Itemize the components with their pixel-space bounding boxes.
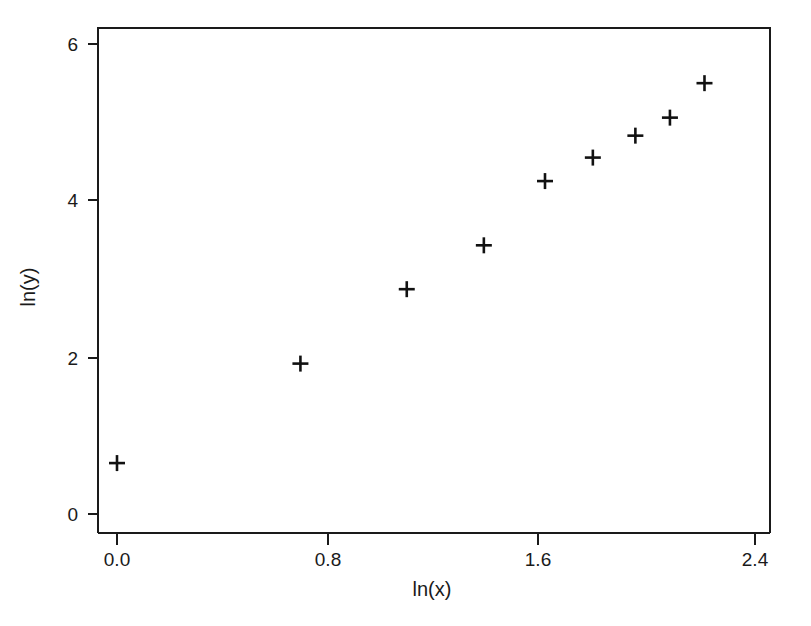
- x-tick-label-2-4: 2.4: [742, 549, 769, 570]
- x-axis-tick-labels: 0.0 0.8 1.6 2.4: [104, 549, 769, 570]
- x-tick-label-1-6: 1.6: [525, 549, 551, 570]
- data-point-marker: [696, 75, 712, 91]
- plot-canvas: 6 4 2 0 0.0 0.8 1.6 2.4 ln(x) ln(y): [0, 0, 811, 626]
- y-tick-label-4: 4: [67, 190, 78, 211]
- plot-frame: [98, 28, 770, 533]
- y-axis-title: ln(y): [17, 268, 39, 307]
- data-point-marker: [476, 237, 492, 253]
- data-point-series: [109, 75, 712, 471]
- data-point-marker: [662, 110, 678, 126]
- data-point-marker: [627, 128, 643, 144]
- x-tick-label-0-0: 0.0: [104, 549, 130, 570]
- plot-border: [98, 28, 770, 533]
- x-axis-title: ln(x): [413, 578, 452, 600]
- y-tick-label-6: 6: [67, 34, 78, 55]
- y-tick-label-2: 2: [67, 348, 78, 369]
- y-axis-tick-labels: 6 4 2 0: [67, 34, 78, 525]
- data-point-marker: [109, 455, 125, 471]
- data-point-marker: [537, 173, 553, 189]
- data-point-marker: [399, 281, 415, 297]
- y-tick-label-0: 0: [67, 504, 78, 525]
- y-axis-ticks: [88, 44, 98, 514]
- x-axis-ticks: [117, 533, 755, 545]
- x-tick-label-0-8: 0.8: [315, 549, 341, 570]
- data-point-marker: [585, 150, 601, 166]
- scatter-plot-figure: 6 4 2 0 0.0 0.8 1.6 2.4 ln(x) ln(y): [0, 0, 811, 626]
- data-point-marker: [292, 356, 308, 372]
